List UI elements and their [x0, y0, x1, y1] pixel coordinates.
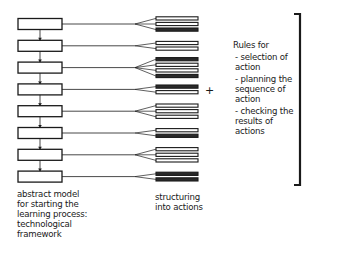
rule-item: - checking theresults ofactions	[233, 106, 293, 136]
action-bar	[156, 104, 198, 107]
right-bracket	[294, 14, 300, 185]
action-bar	[156, 159, 198, 162]
caption-line: into actions	[155, 202, 203, 212]
action-fans	[62, 17, 198, 181]
action-bar	[156, 91, 198, 94]
rule-item: - planning thesequence ofaction	[233, 74, 293, 104]
action-bar	[156, 110, 198, 113]
caption-line: for starting the	[17, 199, 87, 209]
action-bar	[156, 17, 198, 20]
action-bar	[156, 178, 198, 181]
action-bar	[156, 63, 198, 66]
stage-box	[18, 106, 62, 117]
caption-line: learning process:	[17, 209, 87, 219]
stage-box	[18, 19, 62, 30]
caption-line: framework	[17, 229, 87, 239]
action-bar	[156, 134, 198, 137]
framework-caption: abstract modelfor starting thelearning p…	[17, 189, 87, 239]
action-bar	[156, 148, 198, 151]
stage-box	[18, 62, 62, 73]
action-bar	[156, 85, 198, 88]
action-bar	[156, 115, 198, 118]
stage-box	[18, 171, 62, 182]
stage-box	[18, 149, 62, 160]
action-bar	[156, 74, 198, 77]
action-bar	[156, 41, 198, 44]
structuring-caption: structuringinto actions	[155, 192, 203, 212]
action-bar	[156, 22, 198, 25]
action-bar	[156, 28, 198, 31]
stage-box	[18, 128, 62, 139]
caption-line: abstract model	[17, 189, 87, 199]
caption-line: technological	[17, 219, 87, 229]
plus-sign: +	[205, 84, 214, 97]
stage-box	[18, 40, 62, 51]
action-bar	[156, 153, 198, 156]
action-bar	[156, 58, 198, 61]
action-bar	[156, 47, 198, 50]
stage-box	[18, 84, 62, 95]
rules-text: Rules for - selection ofaction- planning…	[233, 40, 293, 136]
action-bar	[156, 129, 198, 132]
action-bar	[156, 69, 198, 72]
action-bar	[156, 172, 198, 175]
rules-heading: Rules for	[233, 40, 293, 50]
rule-item: - selection ofaction	[233, 52, 293, 72]
caption-line: structuring	[155, 192, 203, 202]
